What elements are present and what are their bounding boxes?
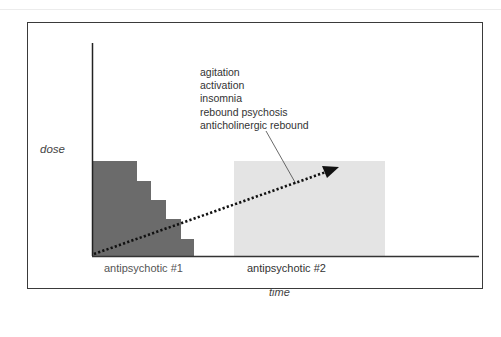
drug1-dose-staircase (92, 161, 194, 256)
effect-item: activation (200, 79, 309, 92)
y-axis-label: dose (40, 143, 65, 155)
effect-item: anticholinergic rebound (200, 119, 309, 132)
x-axis-label: time (269, 286, 290, 298)
effect-item: rebound psychosis (200, 106, 309, 119)
adverse-effects-list: agitation activation insomnia rebound ps… (200, 66, 309, 132)
drug2-label: antipsychotic #2 (247, 262, 326, 274)
drug1-label: antipsychotic #1 (104, 262, 183, 274)
drug2-dose-block (234, 161, 385, 256)
effect-item: insomnia (200, 92, 309, 105)
diagram-canvas (0, 0, 501, 337)
effect-item: agitation (200, 66, 309, 79)
